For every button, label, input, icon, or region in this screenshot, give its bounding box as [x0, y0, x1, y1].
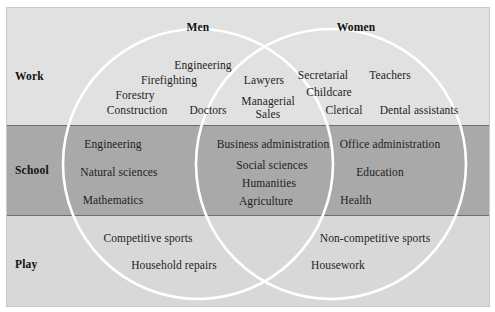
item-work-overlap-1: Lawyers — [244, 74, 284, 87]
item-school-overlap-2: Social sciences — [236, 159, 307, 172]
row-label-school: School — [15, 164, 49, 176]
header-women-text: Women — [337, 21, 376, 33]
item-work-women-2: Teachers — [369, 69, 411, 82]
item-work-men-5: Doctors — [189, 104, 226, 117]
item-play-men-2: Household repairs — [131, 259, 217, 272]
row-label-work: Work — [15, 70, 44, 82]
item-school-men-3: Mathematics — [83, 194, 144, 207]
row-label-play: Play — [15, 258, 38, 270]
item-work-women-1: Secretarial — [298, 69, 348, 82]
item-work-women-3: Childcare — [306, 86, 352, 99]
item-work-overlap-2: Managerial — [241, 95, 294, 108]
venn-diagram-figure: Work Men Women Work School Play Engineer… — [6, 7, 490, 307]
item-school-women-3: Health — [340, 194, 371, 207]
item-work-women-4: Clerical — [325, 104, 362, 117]
item-school-overlap-1: Business administration — [217, 138, 330, 151]
item-play-women-1: Non-competitive sports — [320, 232, 430, 245]
item-work-women-5: Dental assistants — [380, 104, 459, 117]
header-men-text: Men — [187, 21, 210, 33]
item-work-men-1: Engineering — [174, 59, 231, 72]
figure-page: Work Men Women Work School Play Engineer… — [0, 0, 495, 312]
item-school-women-1: Office administration — [340, 138, 441, 151]
item-school-women-2: Education — [356, 166, 404, 179]
label-layer: Work Men Women Work School Play Engineer… — [7, 8, 489, 306]
item-school-men-1: Engineering — [84, 138, 141, 151]
item-work-men-2: Firefighting — [141, 74, 197, 87]
item-play-women-2: Housework — [311, 259, 365, 272]
item-school-overlap-3: Humanities — [242, 177, 296, 190]
item-work-men-4: Construction — [107, 104, 168, 117]
item-work-men-3: Forestry — [115, 89, 154, 102]
item-work-overlap-3: Sales — [256, 108, 281, 121]
item-school-overlap-4: Agriculture — [239, 195, 293, 208]
item-school-men-2: Natural sciences — [80, 166, 157, 179]
item-play-men-1: Competitive sports — [103, 232, 192, 245]
